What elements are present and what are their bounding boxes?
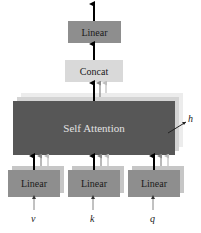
heads-pointer bbox=[168, 122, 186, 133]
arrows-layer bbox=[0, 0, 201, 233]
input-arrows bbox=[34, 198, 153, 210]
linear-k-to-attention-arrows bbox=[94, 156, 108, 170]
attention-to-concat-arrows bbox=[94, 83, 106, 101]
input-k-label: k bbox=[90, 213, 94, 224]
input-q-label: q bbox=[150, 213, 155, 224]
linear-v-to-attention-arrows bbox=[34, 156, 48, 170]
input-v-label: v bbox=[31, 213, 35, 224]
linear-q-to-attention-arrows bbox=[154, 156, 168, 170]
heads-label: h bbox=[188, 113, 193, 124]
